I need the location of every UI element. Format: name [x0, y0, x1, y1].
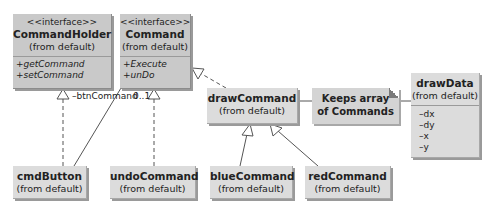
package-label: (from default)	[110, 183, 195, 198]
association-multiplicity-label: 0..1	[133, 91, 150, 102]
operations-compartment: +getCommand +setCommand	[13, 57, 111, 84]
class-name: drawCommand	[207, 88, 297, 105]
package-label: (from default)	[207, 105, 297, 120]
interface-commandholder[interactable]: <<interface>> CommandHolder (from defaul…	[13, 14, 112, 89]
interface-command[interactable]: <<interface>> Command (from default) +Ex…	[120, 14, 191, 89]
class-name: CommandHolder	[13, 28, 111, 41]
operation: +unDo	[123, 70, 187, 81]
package-label: (from default)	[210, 183, 292, 198]
realization-arrowhead	[57, 89, 69, 99]
note-keeps-array[interactable]: Keeps array of Commands	[312, 88, 399, 124]
package-label: (from default)	[305, 183, 390, 198]
operation: +setCommand	[16, 70, 108, 81]
package-label: (from default)	[13, 183, 86, 198]
attribute: –dx	[419, 109, 473, 120]
operations-compartment: +Execute +unDo	[120, 57, 190, 84]
association-role-label: –btnCommand	[72, 91, 138, 102]
note-text-line1: Keeps array	[312, 92, 399, 105]
stereotype-label: <<interface>>	[13, 14, 111, 28]
class-name: drawData	[411, 73, 479, 90]
stereotype-label: <<interface>>	[120, 14, 190, 28]
note-text-line2: of Commands	[312, 105, 399, 118]
package-label: (from default)	[120, 41, 190, 56]
class-undocommand[interactable]: undoCommand (from default)	[110, 166, 196, 199]
class-cmdbutton[interactable]: cmdButton (from default)	[13, 166, 87, 199]
operation: +getCommand	[16, 59, 108, 70]
class-name: blueCommand	[210, 166, 292, 183]
class-name: cmdButton	[13, 166, 86, 183]
attribute: –x	[419, 131, 473, 142]
attributes-compartment: –dx –dy –x –y	[411, 106, 479, 156]
attribute: –dy	[419, 120, 473, 131]
class-redcommand[interactable]: redCommand (from default)	[305, 166, 391, 199]
package-label: (from default)	[411, 90, 479, 105]
note-fold-corner	[389, 88, 399, 98]
class-name: redCommand	[305, 166, 390, 183]
class-name: Command	[120, 28, 190, 41]
package-label: (from default)	[13, 41, 111, 56]
class-bluecommand[interactable]: blueCommand (from default)	[210, 166, 293, 199]
class-drawcommand[interactable]: drawCommand (from default)	[207, 88, 298, 124]
attribute: –y	[419, 142, 473, 153]
operation: +Execute	[123, 59, 187, 70]
class-name: undoCommand	[110, 166, 195, 183]
class-drawdata[interactable]: drawData (from default) –dx –dy –x –y	[411, 73, 480, 158]
